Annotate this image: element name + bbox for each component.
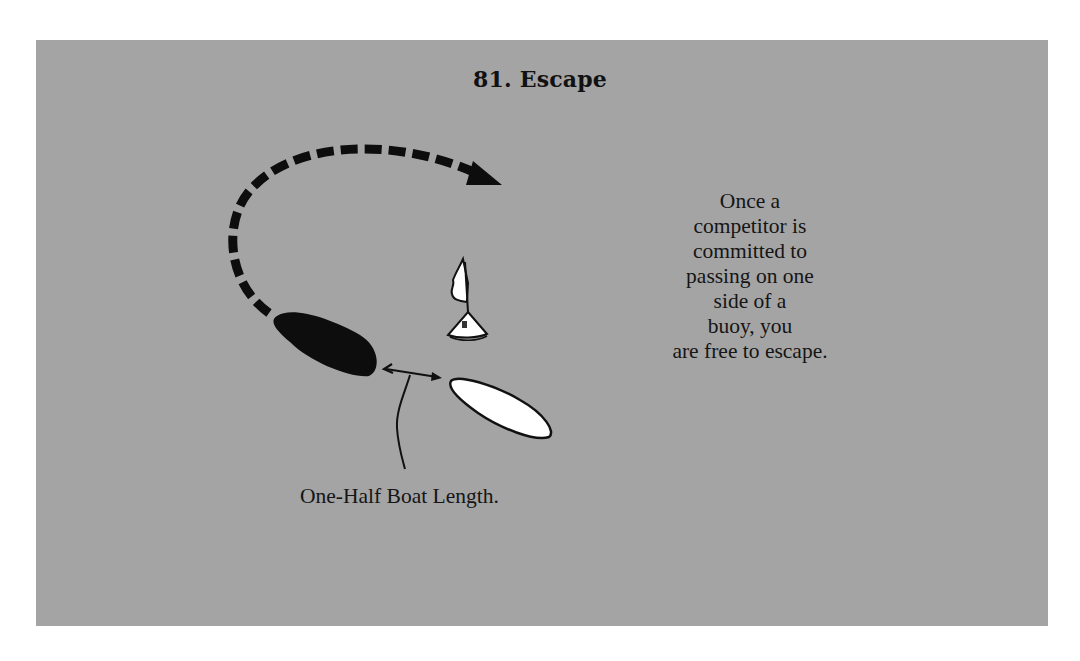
explanation-line: Once a [620,189,880,214]
explanation-line: passing on one [620,264,880,289]
explanation-line: competitor is [620,214,880,239]
buoy-icon [448,259,487,340]
distance-caption: One-Half Boat Length. [300,484,499,509]
explanation-line: are free to escape. [620,339,880,364]
dark-boat-icon [273,312,376,376]
explanation-text: Once a competitor is committed to passin… [620,189,880,364]
explanation-line: committed to [620,239,880,264]
caption-leader-line [397,375,410,469]
white-boat-icon [450,379,551,438]
explanation-line: buoy, you [620,314,880,339]
escape-diagram [0,0,1080,661]
explanation-line: side of a [620,289,880,314]
distance-arrow [384,364,442,381]
arrowhead-icon [466,161,502,185]
